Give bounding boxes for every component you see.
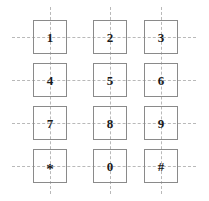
key-6-label: 6 <box>158 74 165 87</box>
key-6[interactable]: 6 <box>144 63 178 97</box>
key-2-label: 2 <box>107 31 114 44</box>
keypad-diagram: 123456789*0# <box>0 0 209 201</box>
key-3[interactable]: 3 <box>144 20 178 54</box>
key-9-label: 9 <box>158 117 165 130</box>
key-0-label: 0 <box>107 160 114 173</box>
key-star-label: * <box>46 162 54 177</box>
key-7-label: 7 <box>47 117 54 130</box>
key-1[interactable]: 1 <box>33 20 67 54</box>
key-1-label: 1 <box>47 31 54 44</box>
key-5[interactable]: 5 <box>93 63 127 97</box>
key-8-label: 8 <box>107 117 114 130</box>
key-star[interactable]: * <box>33 149 67 183</box>
key-5-label: 5 <box>107 74 114 87</box>
key-3-label: 3 <box>158 31 165 44</box>
key-9[interactable]: 9 <box>144 106 178 140</box>
key-2[interactable]: 2 <box>93 20 127 54</box>
key-8[interactable]: 8 <box>93 106 127 140</box>
key-4-label: 4 <box>47 74 54 87</box>
key-0[interactable]: 0 <box>93 149 127 183</box>
key-hash-label: # <box>158 160 165 173</box>
key-4[interactable]: 4 <box>33 63 67 97</box>
key-7[interactable]: 7 <box>33 106 67 140</box>
key-hash[interactable]: # <box>144 149 178 183</box>
